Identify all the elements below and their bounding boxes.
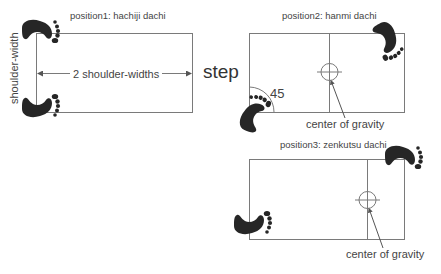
- right-foot-icon: [22, 94, 60, 117]
- front-foot-icon: [368, 19, 406, 64]
- angle-label: 45: [270, 86, 284, 101]
- position1-group: position1: hachiji dachi 2 shoulder-widt…: [8, 10, 193, 117]
- position3-rect: [250, 160, 405, 240]
- stance-diagram: position1: hachiji dachi 2 shoulder-widt…: [0, 0, 441, 274]
- back-foot-icon: [234, 211, 272, 234]
- cog-pointer-arrow: [370, 210, 384, 248]
- position1-label: position1: hachiji dachi: [70, 10, 166, 21]
- step-label: step: [203, 61, 239, 82]
- two-shoulder-widths-label: 2 shoulder-widths: [73, 68, 160, 80]
- shoulder-width-label: shoulder-width: [8, 32, 20, 104]
- left-foot-icon: [22, 20, 60, 43]
- position3-group: position3: zenkutsu dachi center of grav…: [234, 139, 425, 260]
- back-foot-icon: [237, 92, 273, 136]
- position2-label: position2: hanmi dachi: [282, 10, 377, 21]
- position2-group: position2: hanmi dachi 45 center of grav…: [237, 10, 406, 136]
- position3-label: position3: zenkutsu dachi: [280, 139, 387, 150]
- position3-cog-label: center of gravity: [346, 248, 425, 260]
- position2-cog-label: center of gravity: [306, 118, 385, 130]
